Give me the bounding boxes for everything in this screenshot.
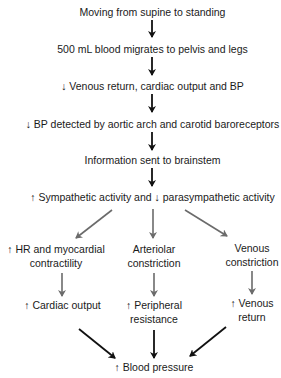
- node-venous-return-decrease: ↓ Venous return, cardiac output and BP: [0, 79, 281, 93]
- node-text: ↓ Venous return, cardiac output and BP: [0, 79, 281, 93]
- node-venous-return-increase: ↑ Venous return: [216, 296, 281, 324]
- node-text: Venous: [216, 241, 281, 255]
- node-text: ↑ Cardiac output: [0, 298, 125, 312]
- node-text: constriction: [216, 255, 281, 269]
- node-text: ↓ BP detected by aortic arch and carotid…: [0, 117, 281, 131]
- arrow-branch-left-icon: [76, 210, 112, 238]
- node-text: Information sent to brainstem: [0, 153, 281, 167]
- node-text: constriction: [114, 256, 194, 270]
- node-text: contractility: [0, 256, 112, 270]
- node-hr-contractility: ↑ HR and myocardial contractility: [0, 242, 112, 270]
- arrow-converge-right-icon: [190, 327, 226, 356]
- node-cardiac-output: ↑ Cardiac output: [0, 298, 125, 312]
- node-brainstem: Information sent to brainstem: [0, 153, 281, 167]
- arrow-branch-right-icon: [185, 210, 227, 236]
- node-venous-constriction: Venous constriction: [216, 241, 281, 269]
- node-blood-migrates: 500 mL blood migrates to pelvis and legs: [0, 42, 281, 56]
- node-blood-pressure: ↑ Blood pressure: [0, 360, 281, 374]
- node-text: return: [216, 310, 281, 324]
- node-text: Moving from supine to standing: [0, 5, 281, 19]
- node-text: ↑ Venous: [216, 296, 281, 310]
- node-baroreceptors: ↓ BP detected by aortic arch and carotid…: [0, 117, 281, 131]
- node-text: ↑ Blood pressure: [0, 360, 281, 374]
- node-text: ↑ Sympathetic activity and ↓ parasympath…: [0, 190, 281, 204]
- node-text: ↑ Peripheral: [114, 298, 194, 312]
- arrow-converge-left-icon: [79, 329, 115, 358]
- node-text: 500 mL blood migrates to pelvis and legs: [0, 42, 281, 56]
- node-arteriolar-constriction: Arteriolar constriction: [114, 242, 194, 270]
- node-sympathetic: ↑ Sympathetic activity and ↓ parasympath…: [0, 190, 281, 204]
- node-text: ↑ HR and myocardial: [0, 242, 112, 256]
- node-supine-to-standing: Moving from supine to standing: [0, 5, 281, 19]
- node-peripheral-resistance: ↑ Peripheral resistance: [114, 298, 194, 326]
- node-text: Arteriolar: [114, 242, 194, 256]
- node-text: resistance: [114, 312, 194, 326]
